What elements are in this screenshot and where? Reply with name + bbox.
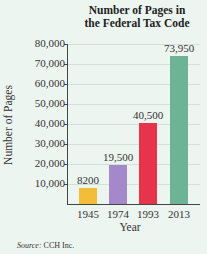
y-tick-label: 50,000 [35,97,65,109]
bar-value-label: 40,500 [128,109,168,121]
y-tick-label: 60,000 [35,77,65,89]
bar-1974 [109,165,127,204]
x-tick-label: 1993 [133,208,163,220]
source-note: Source: CCH Inc. [17,241,74,250]
y-tick-label: 30,000 [35,137,65,149]
y-tick-label: 20,000 [35,157,65,169]
bar-value-label: 73,950 [159,42,199,54]
x-tick-label: 1974 [103,208,133,220]
chart-title-line-2: the Federal Tax Code [70,17,204,30]
x-tick-label: 2013 [164,208,194,220]
chart-title-line-1: Number of Pages in [70,4,204,17]
source-prefix: Source: [17,241,42,250]
y-tick-label: 70,000 [35,57,65,69]
x-axis-label: Year [115,221,145,233]
y-tick-label: 10,000 [35,177,65,189]
bar-2013 [170,56,188,204]
y-tick-label: 40,000 [35,117,65,129]
bar-value-label: 8200 [68,174,108,186]
y-axis-label: Number of Pages [2,85,14,165]
x-axis-line [67,204,200,205]
bar-1945 [79,188,97,204]
chart-title: Number of Pages in the Federal Tax Code [70,4,204,30]
source-text: CCH Inc. [42,241,75,250]
y-tick-label: 80,000 [35,37,65,49]
bar-1993 [139,123,157,204]
bar-value-label: 19,500 [98,151,138,163]
x-tick-label: 1945 [73,208,103,220]
